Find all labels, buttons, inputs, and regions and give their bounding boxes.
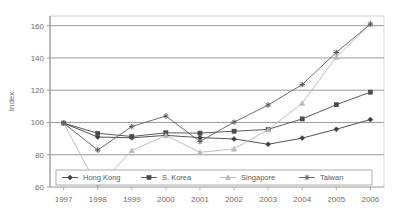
legend-label-2: Singapore: [241, 173, 275, 182]
datapoint-3-2000: [163, 113, 168, 118]
xtick-label-2006: 2006: [361, 195, 379, 204]
series-layer: [61, 21, 373, 189]
legend-label-1: S. Korea: [162, 173, 192, 182]
chart-legend: Hong KongS. KoreaSingaporeTaiwan: [56, 170, 372, 185]
datapoint-3-2004: [300, 82, 305, 87]
xtick-label-1997: 1997: [55, 195, 73, 204]
legend-label-3: Taiwan: [320, 173, 343, 182]
xtick-label-2004: 2004: [293, 195, 311, 204]
xtick-label-2001: 2001: [191, 195, 209, 204]
series-singapore: [61, 21, 373, 189]
ytick-label-140: 140: [31, 54, 45, 63]
ytick-label-80: 80: [35, 151, 44, 160]
datapoint-1-2002: [232, 129, 236, 133]
xtick-label-2002: 2002: [225, 195, 243, 204]
xtick-label-2000: 2000: [157, 195, 175, 204]
ytick-label-60: 60: [35, 183, 44, 192]
datapoint-3-1999: [129, 124, 134, 129]
datapoint-3-2005: [334, 50, 339, 55]
datapoint-1-1999: [130, 134, 134, 138]
plot-area-border: [50, 16, 384, 187]
xtick-label-2005: 2005: [327, 195, 345, 204]
datapoint-1-2006: [368, 90, 372, 94]
datapoint-3-2003: [265, 102, 270, 107]
line-chart: 6080100120140160199719981999200020012002…: [0, 0, 396, 211]
series-taiwan: [61, 21, 373, 152]
series-line-2: [64, 24, 371, 187]
datapoint-3-1997: [61, 120, 66, 125]
datapoint-1-2001: [198, 131, 202, 135]
datapoint-0-2005: [334, 127, 339, 132]
x-axis: 1997199819992000200120022003200420052006: [55, 187, 380, 204]
plot-frame: [50, 16, 384, 187]
xtick-label-2003: 2003: [259, 195, 277, 204]
xtick-label-1998: 1998: [89, 195, 107, 204]
legend-marker-3: [304, 175, 309, 180]
ytick-label-120: 120: [31, 86, 45, 95]
datapoint-0-2003: [266, 142, 271, 147]
datapoint-0-2004: [300, 136, 305, 141]
series-line-3: [64, 24, 371, 150]
datapoint-2-1999: [129, 148, 134, 153]
ytick-label-100: 100: [31, 118, 45, 127]
chart-canvas: 6080100120140160199719981999200020012002…: [0, 0, 396, 211]
datapoint-1-1998: [96, 131, 100, 135]
series-line-1: [64, 92, 371, 136]
datapoint-0-2006: [368, 117, 373, 122]
datapoint-0-2002: [232, 136, 237, 141]
y-axis-title: Index: [7, 92, 16, 112]
datapoint-3-2006: [368, 21, 373, 26]
datapoint-1-2005: [334, 103, 338, 107]
datapoint-1-2004: [300, 117, 304, 121]
xtick-label-1999: 1999: [123, 195, 141, 204]
legend-marker-1: [147, 175, 151, 179]
datapoint-3-2001: [197, 139, 202, 144]
ytick-label-160: 160: [31, 22, 45, 31]
legend-label-0: Hong Kong: [83, 173, 121, 182]
datapoint-3-2002: [231, 119, 236, 124]
datapoint-3-1998: [95, 147, 100, 152]
